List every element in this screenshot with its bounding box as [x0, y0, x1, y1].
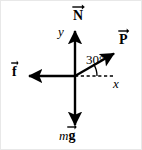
y-axis-label: y	[58, 25, 64, 38]
vector-label-g-glyph: g	[68, 129, 75, 143]
vector-label-P-glyph: P	[119, 33, 128, 47]
vector-label-P-text: P	[119, 32, 128, 47]
overarrow-icon	[11, 60, 19, 65]
overarrow-icon	[118, 28, 130, 33]
vector-label-g-text: g	[68, 128, 75, 143]
force-diagram-figure: N P f m g y	[0, 0, 142, 150]
vector-label-f-glyph: f	[12, 65, 17, 79]
vector-label-f: f	[12, 65, 17, 79]
vector-label-N: N	[73, 9, 83, 23]
vector-label-f-text: f	[12, 64, 17, 79]
overarrow-icon	[72, 4, 85, 9]
vector-label-N-text: N	[73, 8, 83, 23]
vector-label-N-glyph: N	[73, 9, 83, 23]
x-axis-label: x	[113, 77, 119, 90]
angle-label: 30°	[86, 53, 104, 66]
vector-label-mg: m g	[59, 127, 75, 143]
mass-symbol-m: m	[59, 128, 68, 143]
overarrow-icon	[67, 124, 77, 129]
vector-label-P: P	[119, 33, 128, 47]
